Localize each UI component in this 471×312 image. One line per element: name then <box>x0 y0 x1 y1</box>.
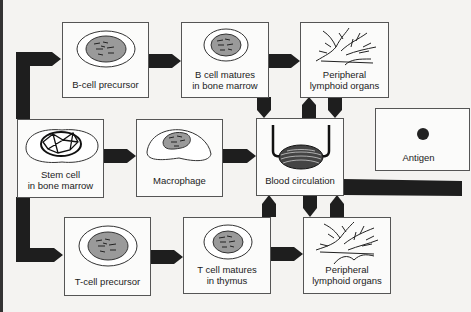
t-matures-cell-icon <box>184 220 272 260</box>
node-stem-cell: Stem cell in bone marrow <box>17 119 104 198</box>
arrow-blood-to-right <box>343 179 462 196</box>
lymphoid-organ-icon <box>301 25 390 69</box>
label-peripheral-top-1: Peripheral <box>301 69 388 80</box>
arrow-stem-to-b-precursor <box>16 52 61 119</box>
label-peripheral-bottom-2: lymphoid organs <box>304 275 390 286</box>
node-b-cell-matures: B cell matures in bone marrow <box>181 22 269 98</box>
arrow-peripheral-bottom-to-blood <box>330 195 344 217</box>
label-blood-circulation: Blood circulation <box>257 175 343 186</box>
arrow-t-matures-to-peripheral-bottom <box>270 247 303 261</box>
b-matures-cell-icon <box>182 25 270 65</box>
label-t-cell-matures-2: in thymus <box>184 275 270 286</box>
label-t-cell-matures-1: T cell matures <box>184 264 270 275</box>
b-precursor-cell-icon <box>63 27 150 77</box>
arrow-stem-to-t-precursor <box>16 197 63 262</box>
label-stem-cell-1: Stem cell <box>18 169 103 180</box>
antigen-dot-icon <box>376 119 471 149</box>
label-antigen: Antigen <box>376 152 461 163</box>
arrow-peripheral-top-to-blood <box>328 97 342 118</box>
arrow-macrophage-to-blood <box>222 149 256 163</box>
label-b-cell-matures-2: in bone marrow <box>182 80 268 91</box>
label-stem-cell-2: in bone marrow <box>18 180 103 191</box>
arrow-b-precursor-to-b-matures <box>148 54 181 68</box>
label-macrophage: Macrophage <box>137 175 222 186</box>
arrow-blood-to-peripheral-bottom <box>303 195 317 217</box>
node-peripheral-lymphoid-top: Peripheral lymphoid organs <box>300 22 389 98</box>
node-antigen: Antigen <box>375 108 470 171</box>
node-t-cell-matures: T cell matures in thymus <box>183 217 271 294</box>
label-b-cell-matures-1: B cell matures <box>182 69 268 80</box>
label-peripheral-bottom-1: Peripheral <box>304 264 390 275</box>
lymphoid-organ-icon <box>304 220 392 266</box>
label-b-cell-precursor: B-cell precursor <box>63 79 148 90</box>
label-peripheral-top-2: lymphoid organs <box>301 80 388 91</box>
node-blood-circulation: Blood circulation <box>256 118 344 196</box>
node-macrophage: Macrophage <box>136 119 223 197</box>
t-precursor-cell-icon <box>65 222 152 272</box>
arrow-t-matures-to-blood <box>262 195 276 217</box>
node-b-cell-precursor: B-cell precursor <box>62 22 149 98</box>
macrophage-icon <box>137 122 224 168</box>
stem-cell-icon <box>18 122 105 170</box>
arrow-t-precursor-to-t-matures <box>150 250 183 264</box>
label-t-cell-precursor: T-cell precursor <box>65 276 150 287</box>
arrow-b-matures-to-peripheral <box>268 54 300 68</box>
node-peripheral-lymphoid-bottom: Peripheral lymphoid organs <box>303 217 391 294</box>
capillary-bed-icon <box>257 121 345 171</box>
arrow-stem-to-macrophage <box>103 149 136 163</box>
node-t-cell-precursor: T-cell precursor <box>64 217 151 296</box>
arrow-b-matures-to-blood <box>257 97 271 118</box>
arrow-blood-to-peripheral-top <box>302 97 316 118</box>
